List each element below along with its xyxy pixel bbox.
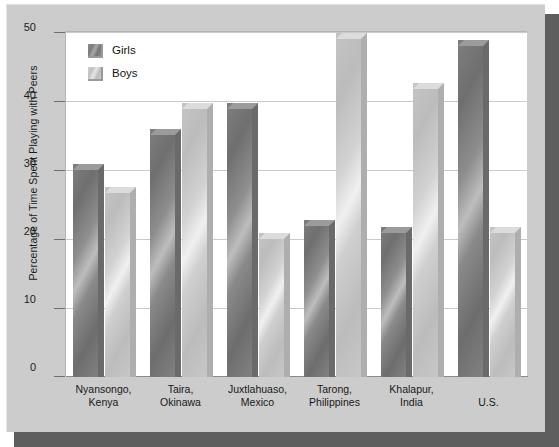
girls-swatch-icon xyxy=(88,44,103,58)
x-axis-labels: Nyansongo,KenyaTaira,OkinawaJuxtlahuaso,… xyxy=(65,383,527,423)
bar-side-face xyxy=(361,33,367,377)
x-axis-label-line: Juxtlahuaso, xyxy=(219,383,296,396)
bar-front-face xyxy=(304,220,329,377)
x-axis-label-line: Mexico xyxy=(219,396,296,409)
bar-side-face xyxy=(207,103,213,377)
bar-front-face xyxy=(259,233,284,377)
bar-side-face xyxy=(175,129,181,377)
x-axis-label-line: India xyxy=(373,396,450,409)
bar-side-face xyxy=(252,103,258,377)
bar-front-face xyxy=(381,227,406,377)
legend-item-boys: Boys xyxy=(88,67,138,81)
bar-side-face xyxy=(329,220,335,377)
x-axis-label-line: Okinawa xyxy=(142,396,219,409)
bar-front-face xyxy=(227,103,252,377)
bar-girls xyxy=(73,164,98,377)
legend-item-girls: Girls xyxy=(88,44,138,58)
plot-area: Girls Boys xyxy=(65,31,527,376)
bar-front-face xyxy=(490,227,515,377)
y-tick-mark-0 xyxy=(54,376,65,377)
bar-side-face xyxy=(406,227,412,377)
bar-boys xyxy=(336,33,361,377)
y-tick-label-20: 20 xyxy=(6,226,36,237)
x-axis-label-line: U.S. xyxy=(450,396,527,409)
y-tick-label-0: 0 xyxy=(6,362,36,373)
bar-group xyxy=(458,32,521,377)
x-axis-label-line: Philippines xyxy=(296,396,373,409)
bar-top-face xyxy=(413,83,444,89)
x-axis-label: Nyansongo,Kenya xyxy=(65,383,142,408)
bar-front-face xyxy=(182,103,207,377)
y-axis-title: Percentage of Time Spent Playing with Pe… xyxy=(27,23,39,323)
boys-swatch-icon xyxy=(88,67,103,81)
bar-side-face xyxy=(284,233,290,377)
bar-side-face xyxy=(98,164,104,377)
bar-front-face xyxy=(73,164,98,377)
figure-frame: Percentage of Time Spent Playing with Pe… xyxy=(6,4,545,432)
y-tick-label-40: 40 xyxy=(6,90,36,101)
y-tick-mark-40 xyxy=(54,101,65,102)
legend-label-girls: Girls xyxy=(112,45,136,57)
bar-group xyxy=(381,32,444,377)
bar-girls xyxy=(381,227,406,377)
y-tick-mark-30 xyxy=(54,170,65,171)
x-axis-label-line: Kenya xyxy=(65,396,142,409)
bar-boys xyxy=(105,187,130,377)
y-tick-mark-20 xyxy=(54,239,65,240)
x-axis-label: Taira,Okinawa xyxy=(142,383,219,408)
bar-boys xyxy=(413,83,438,377)
x-axis-label-line: Khalapur, xyxy=(373,383,450,396)
bar-front-face xyxy=(105,187,130,377)
x-axis-label-line: Nyansongo, xyxy=(65,383,142,396)
bar-girls xyxy=(304,220,329,377)
bar-side-face xyxy=(438,83,444,377)
x-axis-label-line: Taira, xyxy=(142,383,219,396)
x-axis-label: Tarong,Philippines xyxy=(296,383,373,408)
bar-side-face xyxy=(483,40,489,377)
bar-group xyxy=(227,32,290,377)
x-axis-label: U.S. xyxy=(450,383,527,409)
bar-front-face xyxy=(413,83,438,377)
bar-side-face xyxy=(515,227,521,377)
y-tick-label-50: 50 xyxy=(6,22,36,33)
bar-boys xyxy=(490,227,515,377)
legend: Girls Boys xyxy=(88,44,138,90)
chart-screenshot: Percentage of Time Spent Playing with Pe… xyxy=(0,0,559,447)
y-tick-mark-10 xyxy=(54,308,65,309)
bar-group xyxy=(304,32,367,377)
bar-front-face xyxy=(458,40,483,377)
bar-side-face xyxy=(130,187,136,377)
bar-girls xyxy=(227,103,252,377)
bar-front-face xyxy=(150,129,175,377)
bar-girls xyxy=(150,129,175,377)
x-axis-label: Khalapur,India xyxy=(373,383,450,408)
y-tick-mark-50 xyxy=(54,32,65,33)
bar-top-face xyxy=(259,233,290,239)
legend-label-boys: Boys xyxy=(112,68,138,80)
y-tick-label-10: 10 xyxy=(6,294,36,305)
bar-girls xyxy=(458,40,483,377)
bar-front-face xyxy=(336,33,361,377)
y-tick-label-30: 30 xyxy=(6,158,36,169)
bar-group xyxy=(150,32,213,377)
bar-boys xyxy=(259,233,284,377)
x-axis-label-line: Tarong, xyxy=(296,383,373,396)
x-axis-label: Juxtlahuaso,Mexico xyxy=(219,383,296,408)
bar-boys xyxy=(182,103,207,377)
